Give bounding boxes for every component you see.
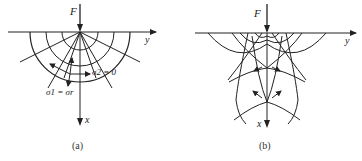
sigma2-annotation: σ2 = 0 bbox=[92, 67, 117, 77]
trajectory-curve-4 bbox=[286, 33, 298, 124]
x-axis-label-a: x bbox=[84, 114, 90, 125]
force-arrowhead-b bbox=[264, 25, 270, 33]
sigma1-arrow-down bbox=[68, 74, 70, 86]
y-axis-arrow-b bbox=[350, 30, 357, 36]
y-axis-label-b: y bbox=[344, 35, 350, 46]
force-label-a: F bbox=[69, 5, 77, 17]
caption-a: (a) bbox=[72, 140, 83, 152]
force-arrowhead-a bbox=[77, 24, 83, 32]
caption-b: (b) bbox=[259, 140, 271, 152]
force-label-b: F bbox=[253, 7, 261, 19]
x-axis-arrow-a bbox=[77, 118, 83, 126]
stress-arrow-b4 bbox=[272, 91, 281, 98]
x-axis-arrow-b bbox=[264, 120, 270, 128]
panel-b bbox=[195, 4, 357, 128]
stress-arrow-b3 bbox=[253, 91, 262, 98]
diagram-canvas: F y x σ2 = 0 σ1 = σr (a) F y x (b) bbox=[0, 0, 362, 161]
trajectory-curve-2 bbox=[272, 33, 306, 80]
sigma1-annotation: σ1 = σr bbox=[46, 87, 74, 97]
y-axis-arrow-a bbox=[150, 29, 157, 35]
trajectory-curve-1 bbox=[228, 33, 262, 80]
trajectory-curve-3 bbox=[236, 33, 248, 124]
y-axis-label-a: y bbox=[144, 34, 150, 45]
x-axis-label-b: x bbox=[256, 118, 262, 129]
panel-a bbox=[8, 4, 157, 126]
